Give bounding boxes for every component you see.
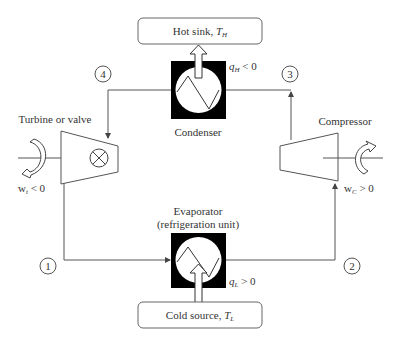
svg-text:3: 3 [287,68,293,80]
compressor-label: Compressor [318,115,372,127]
svg-text:Hot sink, TH: Hot sink, TH [173,25,228,39]
svg-text:4: 4 [100,68,106,80]
condenser-heat-label: qH < 0 [229,60,257,74]
cold-source-label: Cold source, [166,309,224,321]
hot-sink-label: Hot sink, [173,25,216,37]
compressor-work-label: wC > 0 [344,182,374,196]
condenser-label: Condenser [174,126,221,138]
evaporator-sublabel: (refrigeration unit) [157,218,239,231]
state-1: 1 [40,258,56,274]
turbine-block [18,131,118,184]
svg-text:Cold source, TL: Cold source, TL [166,309,234,323]
turbine-work-label: wt < 0 [18,182,46,196]
evaporator-block [171,233,226,303]
state-3: 3 [282,66,298,82]
svg-text:2: 2 [349,260,355,272]
refrigeration-cycle-diagram: Hot sink, TH qH < 0 Condenser 4 3 1 2 Tu… [0,0,400,343]
turbine-label: Turbine or valve [19,113,92,125]
evaporator-heat-label: qL > 0 [229,275,256,289]
cold-source-box: Cold source, TL [138,302,262,328]
condenser-block [171,45,226,119]
evaporator-label: Evaporator [174,205,223,217]
hot-sink-box: Hot sink, TH [138,18,262,44]
svg-text:1: 1 [45,260,51,272]
state-2: 2 [344,258,360,274]
state-4: 4 [95,66,111,82]
compressor-block [280,133,383,181]
